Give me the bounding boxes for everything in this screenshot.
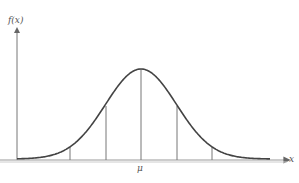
sigma-lines	[70, 69, 212, 160]
mean-label: μ	[137, 163, 143, 173]
y-axis-label: f(x)	[8, 15, 23, 25]
density-curve	[17, 69, 270, 159]
x-axis-label: x	[289, 154, 294, 164]
normal-curve-diagram	[0, 0, 299, 183]
